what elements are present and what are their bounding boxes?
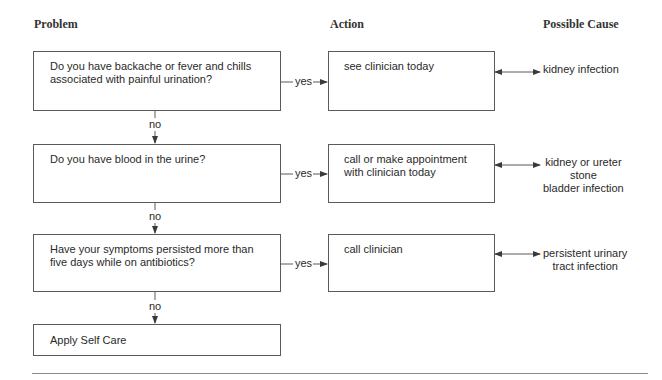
yes-label-1: yes (294, 75, 313, 87)
action-box-3: call clinician (328, 234, 495, 292)
question-box-2: Do you have blood in the urine? (33, 144, 281, 203)
bottom-divider (32, 373, 648, 374)
no-label-2: no (148, 210, 162, 222)
yes-label-2: yes (294, 167, 313, 179)
cause-text-3: persistent urinary tract infection (543, 247, 627, 273)
cause-text-2: kidney or ureter stone bladder infection (543, 156, 624, 195)
question-text-3: Have your symptoms persisted more than f… (50, 243, 254, 269)
self-care-text: Apply Self Care (50, 334, 126, 347)
action-text-3: call clinician (344, 243, 403, 256)
yes-label-3: yes (294, 257, 313, 269)
action-text-1: see clinician today (344, 60, 434, 73)
action-text-2: call or make appointment with clinician … (344, 153, 467, 179)
question-box-1: Do you have backache or fever and chills… (33, 51, 281, 111)
no-label-3: no (148, 300, 162, 312)
question-text-1: Do you have backache or fever and chills… (50, 60, 251, 86)
no-label-1: no (148, 118, 162, 130)
action-box-1: see clinician today (328, 51, 495, 111)
question-box-3: Have your symptoms persisted more than f… (33, 234, 281, 292)
action-box-2: call or make appointment with clinician … (328, 144, 495, 203)
self-care-box: Apply Self Care (33, 324, 281, 356)
cause-text-1: kidney infection (543, 63, 619, 76)
question-text-2: Do you have blood in the urine? (50, 153, 205, 166)
